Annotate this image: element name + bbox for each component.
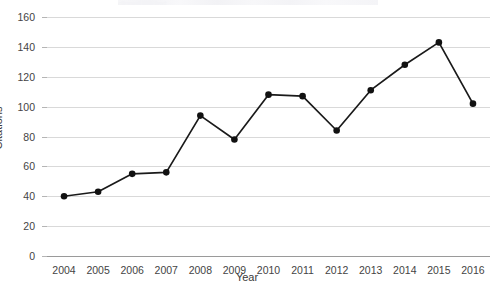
y-tick-label-100: 100 <box>0 102 35 113</box>
data-point-2007 <box>163 169 170 176</box>
data-point-2014 <box>402 62 409 69</box>
data-point-2011 <box>299 93 306 100</box>
plot-area: 020406080100120140160 200420052006200720… <box>47 17 490 256</box>
data-point-2005 <box>95 188 102 195</box>
data-point-2016 <box>470 100 477 107</box>
y-tick-label-0: 0 <box>0 251 35 262</box>
y-tick-label-80: 80 <box>0 132 35 143</box>
data-point-2004 <box>61 193 68 200</box>
y-tick-label-60: 60 <box>0 161 35 172</box>
series-line <box>64 42 473 196</box>
y-tick-label-160: 160 <box>0 12 35 23</box>
y-tick-label-140: 140 <box>0 42 35 53</box>
y-tick-label-40: 40 <box>0 191 35 202</box>
gridline-0 <box>47 256 490 257</box>
data-point-2012 <box>333 127 340 134</box>
data-point-2009 <box>231 136 238 143</box>
data-series-citations <box>47 17 490 256</box>
data-point-2015 <box>436 39 443 46</box>
citations-line-chart: clipped title text Citations Year 020406… <box>0 0 494 300</box>
data-point-2008 <box>197 112 204 119</box>
y-tickmark-0 <box>42 256 47 257</box>
data-point-2006 <box>129 171 136 178</box>
data-point-2013 <box>367 87 374 94</box>
data-point-2010 <box>265 91 272 98</box>
y-tick-label-120: 120 <box>0 72 35 83</box>
x-tick-label-2016: 2016 <box>450 265 494 276</box>
y-axis-label: Citations <box>0 107 4 150</box>
y-tick-label-20: 20 <box>0 221 35 232</box>
clipped-chart-title: clipped title text <box>118 0 378 5</box>
